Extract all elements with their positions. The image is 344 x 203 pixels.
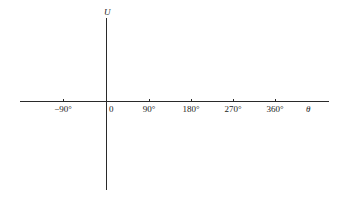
x-tick-label-180: 180° (182, 104, 199, 114)
x-tick-label-90: 90° (143, 104, 156, 114)
x-tick-neg90 (63, 99, 64, 101)
y-axis-line (106, 18, 107, 190)
x-tick-label-270: 270° (224, 104, 241, 114)
x-axis-label: θ (306, 104, 310, 114)
x-tick-270 (233, 99, 234, 101)
x-tick-label-360: 360° (266, 104, 283, 114)
x-tick-360 (275, 99, 276, 101)
x-axis-line (20, 101, 329, 102)
x-tick-label-zero: 0 (109, 104, 114, 114)
y-axis-label: U (104, 7, 111, 17)
x-tick-90 (149, 99, 150, 101)
x-tick-180 (191, 99, 192, 101)
x-tick-label-neg90: −90° (54, 104, 72, 114)
